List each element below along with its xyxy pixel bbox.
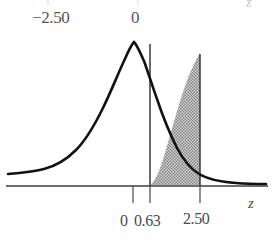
top-tick-label-0: 0 [131,9,139,26]
z-axis-variable-label: z [248,196,254,211]
normal-density-curve [8,42,266,184]
top-tick-label-neg-2.50: −2.50 [32,9,69,26]
bottom-tick-label-2.50: 2.50 [183,211,209,227]
bottom-axis-ticks [133,186,200,203]
shaded-area [148,40,204,188]
normal-distribution-figure: −2.50 0 z 0 0.63 2.50 z [0,0,273,242]
ghost-top-ticks [48,0,138,6]
bottom-tick-label-0: 0 [120,213,128,229]
normal-curve-plot [0,0,273,242]
top-axis-variable-label-z: z [246,0,251,10]
bottom-tick-label-0.63: 0.63 [134,213,160,229]
